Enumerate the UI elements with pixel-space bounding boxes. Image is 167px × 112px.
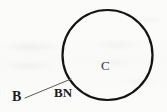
circle-C-outline bbox=[63, 10, 153, 100]
circle-interior-label-c: C bbox=[101, 59, 110, 72]
geometric-figure: C B BN bbox=[0, 0, 167, 112]
point-label-b: B bbox=[12, 90, 21, 104]
segment-label-bn: BN bbox=[54, 86, 72, 99]
figure-canvas bbox=[0, 0, 167, 112]
